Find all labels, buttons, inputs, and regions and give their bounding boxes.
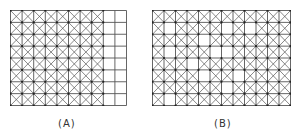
panel-a-label: (A)	[58, 118, 76, 129]
panel-a-grid	[10, 10, 127, 106]
grid-b-diagram	[152, 10, 291, 106]
panel-b-label: (B)	[214, 118, 232, 129]
grid-a-diagram	[10, 10, 127, 106]
panel-b-grid	[152, 10, 291, 106]
